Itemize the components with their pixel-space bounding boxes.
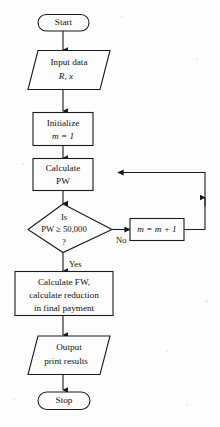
node-stop-label: Stop — [56, 395, 73, 405]
node-output-label-line1: Output — [56, 342, 82, 352]
node-decision[interactable]: Is PW ≥ 50,000 ? — [28, 204, 112, 253]
node-calculate-pw-label-line2: PW — [56, 176, 70, 186]
flowchart-page: Start Input data R, x Initialize m = 1 C… — [0, 0, 220, 427]
node-input-data[interactable]: Input data R, x — [28, 51, 110, 90]
node-initialize-label-line2: m = 1 — [52, 131, 74, 141]
node-decision-label-line3: ? — [62, 237, 66, 247]
node-input-data-label-line1: Input data — [51, 57, 88, 67]
node-calculate-fw[interactable]: Calculate FW, calculate reduction in fin… — [15, 272, 113, 316]
edge-label-yes: Yes — [69, 259, 82, 269]
node-decision-label-line2: PW ≥ 50,000 — [41, 224, 86, 234]
node-calculate-pw-label-line1: Calculate — [46, 163, 81, 173]
node-start[interactable]: Start — [38, 15, 89, 32]
node-input-data-label-line2: R, x — [58, 71, 74, 81]
node-start-label: Start — [55, 17, 73, 27]
node-decision-label-line1: Is — [61, 212, 68, 222]
node-output[interactable]: Output print results — [28, 336, 110, 375]
edge-label-no: No — [116, 235, 127, 245]
node-initialize[interactable]: Initialize m = 1 — [33, 113, 93, 146]
flowchart-canvas: Start Input data R, x Initialize m = 1 C… — [0, 0, 220, 427]
node-initialize-label-line1: Initialize — [47, 118, 80, 128]
node-increment-label: m = m + 1 — [137, 224, 176, 234]
node-calculate-fw-label-line3: in final payment — [34, 303, 95, 313]
node-calculate-fw-label-line2: calculate reduction — [29, 290, 99, 300]
node-stop[interactable]: Stop — [38, 392, 90, 410]
node-increment[interactable]: m = m + 1 — [130, 219, 184, 241]
node-calculate-fw-label-line1: Calculate FW, — [38, 277, 90, 287]
node-output-label-line2: print results — [44, 356, 88, 366]
node-calculate-pw[interactable]: Calculate PW — [33, 159, 93, 191]
